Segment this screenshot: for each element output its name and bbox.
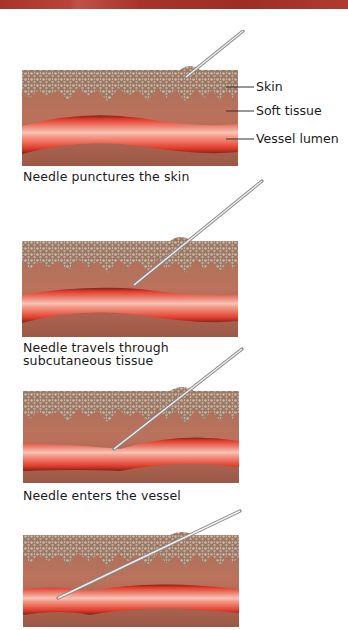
label-soft-tissue: Soft tissue xyxy=(256,104,322,118)
tissue-illustration xyxy=(0,345,348,495)
header-bar xyxy=(0,0,348,9)
label-skin: Skin xyxy=(256,80,283,94)
step-1-panel: Skin Soft tissue Vessel lumen Needle pun… xyxy=(0,30,348,180)
step-4-panel xyxy=(0,505,348,630)
label-vessel-lumen: Vessel lumen xyxy=(256,132,339,146)
step-3-panel: Needle enters the vessel xyxy=(0,345,348,495)
tissue-illustration xyxy=(0,175,348,355)
step-3-caption: Needle enters the vessel xyxy=(23,489,181,502)
step-2-panel: Needle travels through subcutaneous tiss… xyxy=(0,175,348,355)
tissue-illustration xyxy=(0,505,348,630)
